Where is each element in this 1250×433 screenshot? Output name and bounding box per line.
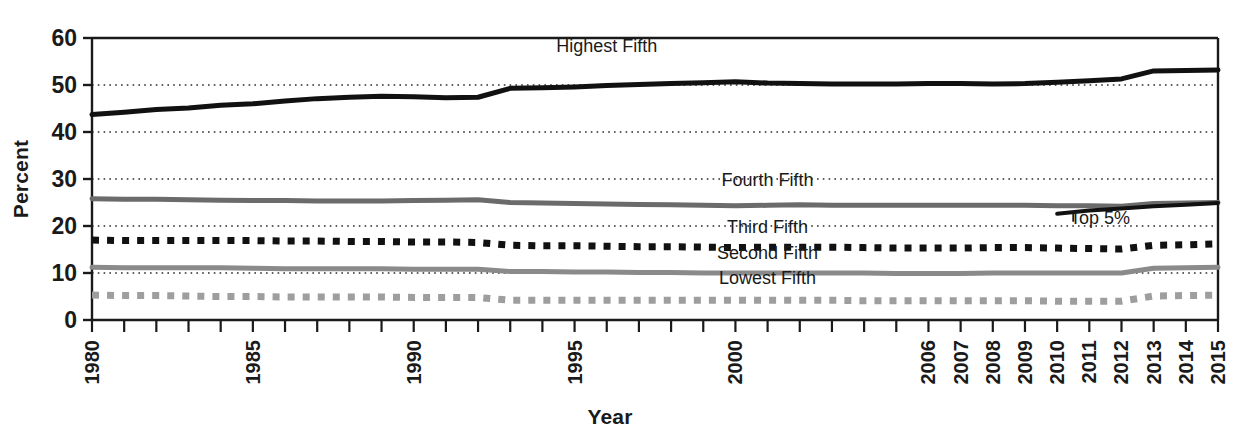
- y-tick-label-0: 0: [64, 307, 77, 333]
- x-tick-label-2000: 2000: [724, 340, 746, 385]
- series-label-fourth-fifth: Fourth Fifth: [722, 170, 814, 190]
- y-axis-title: Percent: [9, 140, 32, 218]
- y-tick-label-20: 20: [51, 213, 77, 239]
- series-label-highest-fifth: Highest Fifth: [556, 36, 657, 56]
- y-tick-label-30: 30: [51, 166, 77, 192]
- y-tick-label-50: 50: [51, 72, 77, 98]
- y-tick-label-60: 60: [51, 25, 77, 51]
- series-line-fourth-fifth: [92, 199, 1218, 207]
- x-tick-label-2009: 2009: [1014, 340, 1036, 385]
- series-line-highest-fifth: [92, 70, 1218, 115]
- line-chart: 0102030405060198019851990199520002006200…: [0, 0, 1250, 433]
- x-tick-label-2006: 2006: [917, 340, 939, 385]
- series-line-third-fifth: [92, 240, 1218, 249]
- x-axis-title: Year: [587, 405, 632, 428]
- series-label-third-fifth: Third Fifth: [727, 217, 808, 237]
- x-tick-label-1980: 1980: [81, 340, 103, 385]
- series-line-lowest-fifth: [92, 295, 1218, 301]
- chart-canvas: 0102030405060198019851990199520002006200…: [0, 0, 1250, 433]
- series-label-lowest-fifth: Lowest Fifth: [719, 268, 816, 288]
- x-tick-label-2011: 2011: [1078, 340, 1100, 383]
- x-tick-label-2015: 2015: [1207, 340, 1229, 385]
- x-tick-label-2014: 2014: [1175, 339, 1197, 384]
- y-tick-label-40: 40: [51, 119, 77, 145]
- y-tick-label-10: 10: [51, 260, 77, 286]
- x-tick-label-1995: 1995: [564, 340, 586, 385]
- series-label-second-fifth: Second Fifth: [717, 243, 818, 263]
- x-tick-label-2012: 2012: [1110, 340, 1132, 385]
- x-tick-label-1985: 1985: [242, 340, 264, 385]
- x-tick-label-2007: 2007: [950, 340, 972, 385]
- x-tick-label-2010: 2010: [1046, 340, 1068, 385]
- series-label-top-5: Top 5%: [1070, 208, 1130, 228]
- x-tick-label-2008: 2008: [982, 340, 1004, 385]
- x-tick-label-1990: 1990: [403, 340, 425, 385]
- x-tick-label-2013: 2013: [1143, 340, 1165, 385]
